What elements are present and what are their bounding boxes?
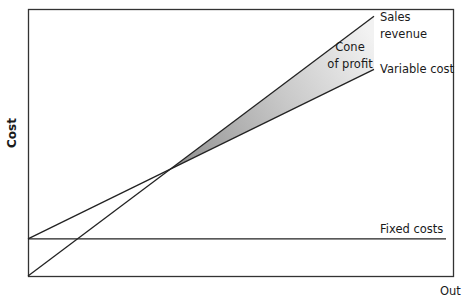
cone-label-line1: Cone: [320, 39, 380, 56]
fixed-costs-label: Fixed costs: [380, 221, 443, 238]
sales-revenue-label-line2: revenue: [380, 26, 427, 43]
y-axis-label: Cost: [5, 113, 19, 153]
cone-of-profit-label: Cone of profit: [320, 39, 380, 73]
sales-revenue-label-line1: Sales: [380, 9, 427, 26]
cone-label-line2: of profit: [320, 56, 380, 73]
x-axis-label: Out: [440, 283, 461, 299]
sales-revenue-label: Sales revenue: [380, 9, 427, 43]
variable-cost-line: [28, 69, 374, 239]
variable-cost-label: Variable cost: [380, 61, 454, 78]
